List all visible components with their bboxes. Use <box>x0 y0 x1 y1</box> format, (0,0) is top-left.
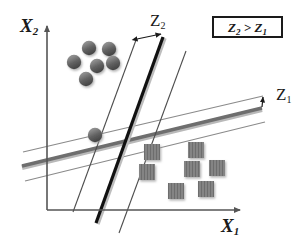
inequality-left-symbol: Z <box>228 20 236 35</box>
z1-margin-width-indicator <box>262 97 263 107</box>
data-point-circle <box>90 59 104 73</box>
y-axis-label-text: X <box>20 15 33 36</box>
z2-margin-width-indicator <box>137 34 161 39</box>
y-axis-label: X2 <box>20 16 38 35</box>
data-point-square <box>139 164 155 180</box>
z2-decision-boundary <box>96 37 163 223</box>
svm-margin-figure: X2 X1 Z2 Z1 Z2 > Z1 <box>0 0 307 248</box>
z2-margin-arrow <box>137 34 161 39</box>
inequality-operator: > <box>241 20 255 35</box>
data-point-square <box>144 144 160 160</box>
data-point-circle <box>82 41 96 55</box>
z2-label: Z2 <box>150 12 165 29</box>
square-points-group <box>139 142 225 199</box>
inequality-annotation-text: Z2 > Z1 <box>228 21 267 34</box>
z1-label-subscript: 1 <box>286 94 291 105</box>
inequality-right-subscript: 1 <box>262 27 267 37</box>
data-point-square <box>198 181 214 197</box>
z1-label-text: Z <box>276 85 286 104</box>
data-point-square <box>209 160 225 176</box>
inequality-annotation-box: Z2 > Z1 <box>212 16 283 38</box>
x-axis-label-subscript: 1 <box>234 225 240 237</box>
data-point-square <box>184 161 200 177</box>
z2-label-subscript: 2 <box>160 20 165 31</box>
z1-margin-arrow <box>262 97 263 107</box>
data-point-circle <box>106 56 120 70</box>
circle-points-group <box>67 41 120 142</box>
data-point-square <box>188 142 204 158</box>
inequality-left-subscript: 2 <box>236 27 241 37</box>
z2-label-text: Z <box>150 11 160 30</box>
data-point-circle <box>102 42 116 56</box>
z2-left-margin-line <box>73 40 136 212</box>
y-axis-label-subscript: 2 <box>33 25 39 37</box>
data-point-circle <box>67 55 81 69</box>
x-axis-label-text: X <box>221 215 234 236</box>
data-point-square <box>168 183 184 199</box>
z1-decision-boundary <box>22 108 262 166</box>
z1-label: Z1 <box>276 86 291 103</box>
data-point-circle <box>79 72 93 86</box>
x-axis-label: X1 <box>221 216 239 235</box>
data-point-circle-support-vector <box>88 128 102 142</box>
z1-decision-boundary-group <box>22 108 262 168</box>
z1-upper-margin-line <box>23 96 263 152</box>
